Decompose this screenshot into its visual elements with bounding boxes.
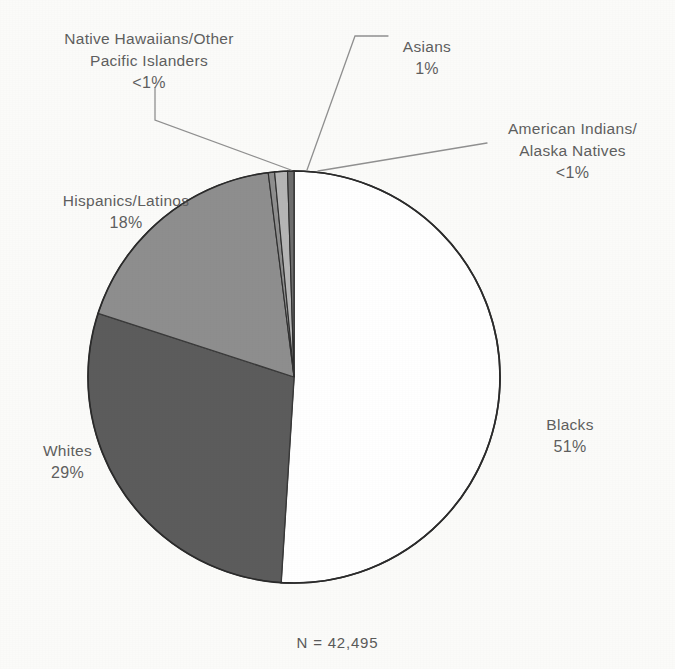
label-native-hawaiians-pacific-islanders: Native Hawaiians/Other Pacific Islanders… (14, 6, 284, 116)
label-american-indians-percent: <1% (470, 162, 675, 184)
leader-line-american-indians (318, 143, 487, 171)
label-blacks: Blacks 51% (500, 392, 640, 480)
pie-chart-figure: Native Hawaiians/Other Pacific Islanders… (0, 0, 675, 669)
label-blacks-percent: 51% (500, 436, 640, 458)
chart-caption: N = 42,495 (0, 634, 675, 651)
label-american-indians-name: American Indians/ Alaska Natives (508, 120, 637, 159)
label-blacks-name: Blacks (546, 416, 593, 433)
label-asians-percent: 1% (352, 58, 502, 80)
label-whites-percent: 29% (0, 462, 135, 484)
label-native-hawaiians-name: Native Hawaiians/Other Pacific Islanders (64, 30, 233, 69)
label-asians: Asians 1% (352, 14, 502, 102)
label-hispanics-percent: 18% (12, 212, 240, 234)
label-whites-name: Whites (43, 442, 92, 459)
label-asians-name: Asians (403, 38, 451, 55)
label-hispanics-name: Hispanics/Latinos (63, 192, 190, 209)
label-hispanics-latinos: Hispanics/Latinos 18% (12, 168, 240, 256)
label-whites: Whites 29% (0, 418, 135, 506)
pie-slice-blacks (281, 171, 500, 583)
label-american-indians-alaska-natives: American Indians/ Alaska Natives <1% (470, 96, 675, 206)
label-native-hawaiians-percent: <1% (14, 72, 284, 94)
